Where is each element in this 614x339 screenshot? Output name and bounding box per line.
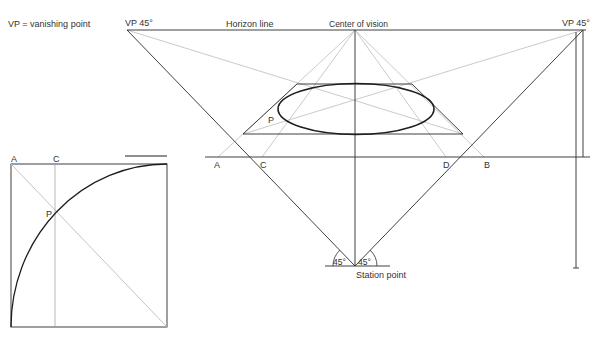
- station-point-label: Station point: [356, 270, 406, 280]
- inset-diagonal: [11, 164, 167, 327]
- ground-a-label: A: [214, 160, 220, 170]
- perspective-diagram: [0, 0, 614, 339]
- guide-cv-to-c: [262, 30, 355, 157]
- vp-right-label: VP 45°: [562, 18, 590, 28]
- inset-diagram: [11, 156, 167, 327]
- legend-text: VP = vanishing point: [8, 19, 90, 29]
- guide-cv-to-d: [355, 30, 446, 157]
- vpright-to-station: [355, 30, 583, 266]
- ground-d-label: D: [443, 160, 450, 170]
- inset-a-label: A: [11, 154, 17, 164]
- main-lines: [127, 30, 590, 268]
- trapezoid: [243, 84, 463, 134]
- inset-p-label: P: [46, 209, 52, 219]
- horizon-line-label: Horizon line: [226, 19, 274, 29]
- inset-c-label: C: [53, 154, 60, 164]
- ground-c-label: C: [260, 160, 267, 170]
- ground-b-label: B: [484, 160, 490, 170]
- angle-left-label: 45°: [333, 257, 346, 267]
- center-of-vision-label: Center of vision: [329, 19, 388, 29]
- point-p-label: P: [268, 115, 274, 125]
- vp-left-label: VP 45°: [125, 18, 153, 28]
- angle-right-label: 45°: [358, 257, 371, 267]
- ellipse: [278, 84, 434, 135]
- angle-arc-right: [370, 250, 377, 266]
